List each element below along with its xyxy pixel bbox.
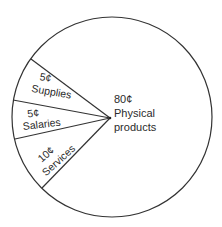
supplies-value: 5¢ (39, 70, 53, 84)
pie-chart: 80¢ Physical products 5¢ Supplies 5¢ Sal… (0, 0, 222, 227)
center-point (109, 117, 112, 120)
physical-name-line2: products (114, 121, 157, 133)
physical-name-line1: Physical (114, 107, 155, 119)
physical-value: 80¢ (114, 93, 132, 105)
